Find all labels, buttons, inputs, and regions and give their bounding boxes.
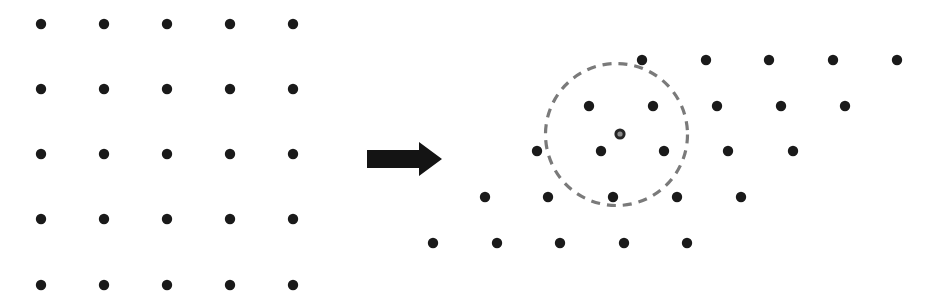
lattice-dot [225,19,235,29]
lattice-dot [764,55,774,65]
lattice-dot [288,214,298,224]
lattice-dot [99,84,109,94]
lattice-dot [701,55,711,65]
lattice-dot [555,238,565,248]
lattice-dot [637,55,647,65]
lattice-dot [288,19,298,29]
lattice-dot [532,146,542,156]
lattice-dot [225,149,235,159]
lattice-dot [584,101,594,111]
lattice-dot [36,214,46,224]
lattice-dot [225,280,235,290]
lattice-dot [162,84,172,94]
lattice-dot [828,55,838,65]
lattice-dot [225,214,235,224]
lattice-dot [619,238,629,248]
lattice-dot [36,19,46,29]
lattice-dot [36,84,46,94]
lattice-dot [36,280,46,290]
lattice-dot [162,19,172,29]
lattice-dot [162,280,172,290]
lattice-dot [162,149,172,159]
lattice-dot [492,238,502,248]
lattice-dot [659,146,669,156]
lattice-dot [225,84,235,94]
lattice-dot [840,101,850,111]
figure-canvas [0,0,934,301]
lattice-dot [99,280,109,290]
lattice-dot [723,146,733,156]
lattice-dot [672,192,682,202]
lattice-dot [288,84,298,94]
lattice-dot [99,19,109,29]
lattice-dot [36,149,46,159]
center-marker-group [614,128,625,139]
lattice-dot [596,146,606,156]
lattice-dot [543,192,553,202]
lattice-dot [162,214,172,224]
lattice-dot [99,214,109,224]
lattice-dot [99,149,109,159]
lattice-dot [428,238,438,248]
center-marker-core [617,131,622,136]
lattice-dot [608,192,618,202]
lattice-dot [480,192,490,202]
lattice-dot [288,280,298,290]
lattice-dot [288,149,298,159]
lattice-dot [788,146,798,156]
lattice-transformation-figure [0,0,934,301]
lattice-dot [892,55,902,65]
lattice-dot [776,101,786,111]
lattice-dot [736,192,746,202]
lattice-dot [712,101,722,111]
lattice-dot [682,238,692,248]
lattice-dot [648,101,658,111]
